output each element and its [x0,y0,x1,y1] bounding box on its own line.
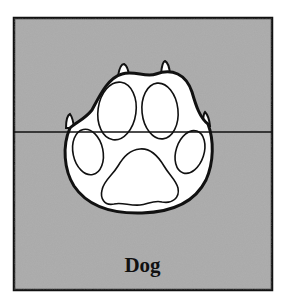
animal-label: Dog [13,253,272,278]
paw-print-diagram: Dog [0,0,286,302]
